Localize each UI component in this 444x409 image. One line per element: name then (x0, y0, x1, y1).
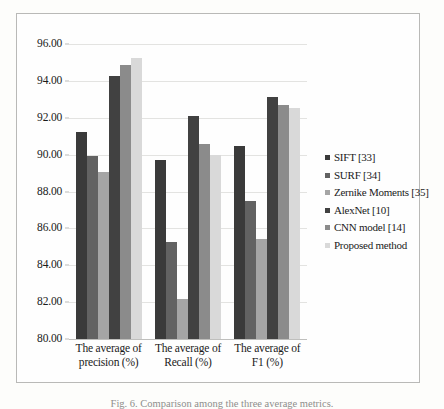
bar (256, 239, 267, 339)
legend-swatch-icon (325, 208, 330, 213)
gridline (69, 339, 307, 340)
bar (131, 58, 142, 339)
x-axis-label-line: F1 (%) (228, 356, 307, 370)
bar (109, 76, 120, 339)
bar-group (69, 44, 148, 339)
legend-item[interactable]: SIFT [33] (325, 152, 437, 163)
y-axis-tick-label: 84.00 (37, 260, 62, 272)
bar (289, 108, 300, 339)
bar-group (148, 44, 227, 339)
bar-groups (69, 44, 307, 339)
bar (210, 155, 221, 339)
bar (87, 156, 98, 339)
legend-swatch-icon (325, 225, 330, 230)
y-axis-tick-label: 80.00 (37, 333, 62, 345)
bar (177, 299, 188, 339)
legend-label: AlexNet [10] (334, 205, 389, 216)
figure-caption: Fig. 6. Comparison among the three avera… (0, 398, 444, 409)
bar (120, 65, 131, 339)
bar (166, 242, 177, 339)
y-axis-tick-label: 92.00 (37, 112, 62, 124)
x-axis-label: The average ofF1 (%) (228, 342, 307, 369)
legend-label: CNN model [14] (334, 222, 405, 233)
legend-label: SURF [34] (334, 170, 380, 181)
x-axis-label-line: The average of (148, 342, 227, 356)
legend-label: SIFT [33] (334, 152, 375, 163)
bar (234, 146, 245, 339)
bar (267, 97, 278, 339)
y-axis-tick-label: 86.00 (37, 223, 62, 235)
x-axis-label-line: The average of (228, 342, 307, 356)
y-axis-tick-label: 96.00 (37, 38, 62, 50)
plot-area: 96.0094.0092.0090.0088.0086.0084.0082.00… (69, 44, 307, 339)
y-axis-tick-label: 88.00 (37, 186, 62, 198)
bar (199, 144, 210, 339)
x-axis-labels: The average ofprecision (%)The average o… (69, 342, 307, 369)
bar (98, 172, 109, 339)
legend-swatch-icon (325, 190, 330, 195)
legend-swatch-icon (325, 155, 330, 160)
chart-frame: 96.0094.0092.0090.0088.0086.0084.0082.00… (16, 13, 420, 383)
bar (278, 105, 289, 339)
chart-legend: SIFT [33]SURF [34]Zernike Moments [35]Al… (325, 152, 437, 257)
y-axis-tick-label: 94.00 (37, 75, 62, 87)
bar (188, 116, 199, 339)
x-axis-label: The average ofRecall (%) (148, 342, 227, 369)
legend-swatch-icon (325, 173, 330, 178)
legend-item[interactable]: SURF [34] (325, 170, 437, 181)
bar (155, 160, 166, 339)
legend-label: Zernike Moments [35] (334, 187, 429, 198)
bar-group (228, 44, 307, 339)
legend-item[interactable]: AlexNet [10] (325, 205, 437, 216)
legend-item[interactable]: Proposed method (325, 240, 437, 251)
legend-item[interactable]: CNN model [14] (325, 222, 437, 233)
y-axis-tick-label: 90.00 (37, 149, 62, 161)
bar (245, 201, 256, 339)
legend-label: Proposed method (334, 240, 407, 251)
legend-item[interactable]: Zernike Moments [35] (325, 187, 437, 198)
bar (76, 132, 87, 339)
x-axis-label-line: Recall (%) (148, 356, 227, 370)
x-axis-label: The average ofprecision (%) (69, 342, 148, 369)
x-axis-label-line: precision (%) (69, 356, 148, 370)
x-axis-label-line: The average of (69, 342, 148, 356)
legend-swatch-icon (325, 243, 330, 248)
y-axis-tick-label: 82.00 (37, 296, 62, 308)
